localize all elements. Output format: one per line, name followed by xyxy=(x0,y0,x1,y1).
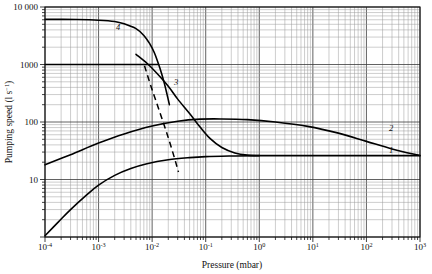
label-1: 1 xyxy=(389,145,393,155)
y-axis-title-superscript: −1 xyxy=(3,84,10,91)
y-tick-label-text: 10 000 xyxy=(13,2,38,12)
y-axis-title: Pumping speed (l s−1) xyxy=(3,81,16,164)
pumping-speed-chart: 10-410-310-210-1100101102103 10 00010001… xyxy=(0,0,432,274)
x-tick-exponent: -3 xyxy=(100,241,105,248)
x-tick-exponent: 0 xyxy=(262,241,265,248)
x-axis-title: Pressure (mbar) xyxy=(202,260,262,271)
x-tick-exponent: 2 xyxy=(369,241,372,248)
y-axis-title-group: Pumping speed (l s−1) xyxy=(3,81,16,164)
x-tick-exponent: 1 xyxy=(316,241,319,248)
x-axis-title-group: Pressure (mbar) xyxy=(202,260,262,271)
y-axis-title-main: Pumping speed (l s xyxy=(4,90,15,163)
x-tick-exponent: 3 xyxy=(423,241,426,248)
y-tick-label-text: 100 xyxy=(25,117,39,127)
x-tick-exponent: -2 xyxy=(154,241,159,248)
y-tick-label-text: 10 xyxy=(29,175,39,185)
y-tick-label-text: 1000 xyxy=(20,60,39,70)
x-tick-exponent: -4 xyxy=(47,241,52,248)
y-axis-title-close: ) xyxy=(4,81,15,84)
chart-figure: 10-410-310-210-1100101102103 10 00010001… xyxy=(0,0,432,274)
chart-background xyxy=(0,0,432,274)
label-3: 3 xyxy=(173,77,178,87)
x-tick-exponent: -1 xyxy=(208,241,213,248)
